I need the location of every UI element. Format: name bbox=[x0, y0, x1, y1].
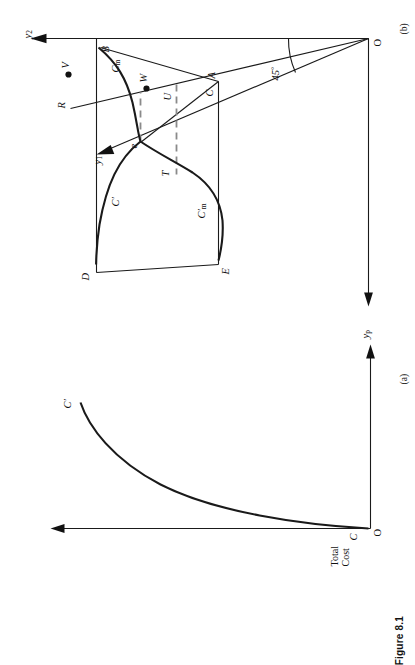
panel-b-marker-w-dot bbox=[143, 85, 149, 91]
panel-a-vertical-axis-arrowhead bbox=[50, 524, 64, 533]
panel-b-graphic bbox=[0, 0, 415, 324]
panel-b-angle-value: 45 bbox=[270, 70, 281, 81]
figure-caption: Figure 8.1 bbox=[394, 616, 405, 665]
panel-b-angle-label: 45° bbox=[270, 67, 281, 80]
panel-a-value-axis-label-line2: Cost bbox=[339, 546, 350, 566]
panel-b-axis-y1-label: y1 bbox=[92, 156, 103, 164]
panel-b-point-u-label: U bbox=[162, 92, 173, 100]
panel-b-point-b-label: B bbox=[100, 46, 111, 52]
panel-a-value-axis-label-line1: Total bbox=[328, 546, 339, 566]
panel-b-curve-lower bbox=[140, 141, 222, 260]
panel-a-caption: (a) bbox=[398, 373, 408, 384]
panel-b-angle-degree-sign: ° bbox=[269, 67, 277, 70]
panel-a-axis-yp-subscript: p bbox=[363, 330, 372, 334]
panel-b-axis-y1-base: y bbox=[91, 159, 102, 164]
panel-b-point-r-label: R bbox=[56, 102, 67, 108]
panel-a: O C C′ yp Total Cost (a) bbox=[0, 324, 415, 624]
panel-b-point-t-label: T bbox=[160, 170, 171, 176]
panel-b: O y2 y1 45° A B C D E e T U R V W C′ Cm bbox=[0, 0, 415, 324]
panel-b-origin-label: O bbox=[372, 38, 383, 46]
panel-b-axis-y2-label: y2 bbox=[22, 30, 33, 38]
panel-a-point-c-label: C bbox=[348, 533, 359, 540]
panel-a-origin-label: O bbox=[372, 528, 383, 536]
panel-b-point-e-upper-label: E bbox=[220, 268, 231, 274]
panel-a-graphic bbox=[0, 324, 415, 624]
panel-b-curve-upper-max-subscript: m bbox=[113, 59, 122, 65]
panel-b-axis-y2-base: y bbox=[21, 33, 32, 38]
panel-b-curve-lower-subscript: m bbox=[199, 203, 208, 209]
panel-a-cost-curve bbox=[80, 402, 368, 528]
panel-b-horizontal-axis-arrowhead bbox=[364, 292, 373, 306]
panel-b-axis-y1-subscript: 1 bbox=[95, 156, 104, 160]
panel-b-curve-lower-label: C′m bbox=[196, 203, 207, 218]
panel-b-marker-v-dot bbox=[65, 71, 71, 77]
panel-b-curve-upper-label: C′ bbox=[110, 197, 121, 206]
panel-b-edge-de bbox=[96, 264, 218, 272]
panel-b-point-d-label: D bbox=[80, 272, 91, 280]
panel-a-value-axis-label: Total Cost bbox=[328, 546, 350, 566]
panel-b-axis-y2-subscript: 2 bbox=[25, 30, 34, 34]
panel-b-curve-lower-base: C′ bbox=[195, 209, 206, 218]
panel-b-curve-upper-max-base: C bbox=[109, 65, 120, 72]
panel-b-caption: (b) bbox=[398, 23, 408, 34]
panel-b-angle-arc bbox=[288, 38, 295, 72]
panel-b-axis-y1-arrowhead bbox=[96, 145, 114, 154]
panel-b-curve-upper-max-label: Cm bbox=[110, 59, 121, 72]
panel-b-point-c-label: C bbox=[204, 89, 215, 96]
panel-a-horizontal-axis-arrowhead bbox=[366, 344, 375, 358]
panel-b-point-a-label: A bbox=[206, 72, 217, 78]
panel-b-marker-w-label: W bbox=[138, 73, 149, 82]
panel-a-axis-yp-label: yp bbox=[360, 330, 371, 338]
panel-b-marker-v-label: V bbox=[60, 62, 71, 68]
panel-a-point-cprime-label: C′ bbox=[62, 399, 73, 408]
panel-b-axis-y1 bbox=[110, 38, 368, 148]
panel-a-axis-yp-base: y bbox=[359, 333, 370, 338]
panel-b-point-e-label: e bbox=[128, 143, 139, 148]
